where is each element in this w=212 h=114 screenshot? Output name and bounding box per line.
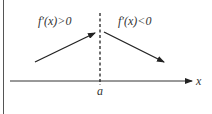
derivative-sign-diagram: x a f′(x)>0 f′(x)<0 (0, 0, 212, 114)
point-a-label: a (97, 84, 103, 98)
x-axis-label: x (195, 74, 202, 88)
positive-derivative-label: f′(x)>0 (38, 14, 71, 28)
increasing-arrow (35, 33, 95, 62)
decreasing-arrow (104, 32, 164, 62)
negative-derivative-label: f′(x)<0 (118, 14, 151, 28)
